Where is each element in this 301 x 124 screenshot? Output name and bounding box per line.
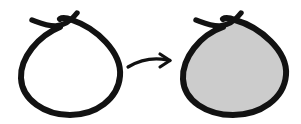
shape-fill-diagram xyxy=(0,0,301,124)
left-loop-figure xyxy=(21,13,120,115)
left-loop-tail xyxy=(32,13,77,26)
transform-arrow-icon xyxy=(128,54,170,67)
diagram-canvas: A hand drawn teardrop shaped loop with c… xyxy=(0,0,301,124)
right-loop-figure xyxy=(183,13,286,115)
left-loop-outline xyxy=(21,18,120,115)
arrow-head-lower-barb xyxy=(160,61,170,68)
